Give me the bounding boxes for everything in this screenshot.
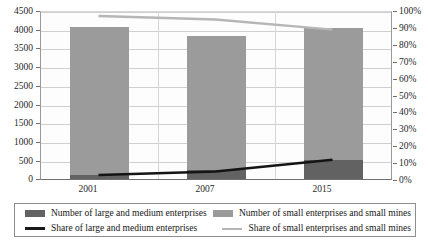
axis-tick — [393, 62, 397, 63]
plot-area — [40, 11, 392, 180]
axis-tick — [393, 79, 397, 80]
right-axis-tick-label: 20% — [399, 141, 416, 151]
axis-tick — [393, 180, 397, 181]
axis-tick — [36, 67, 40, 68]
legend-label: Number of large and medium enterprises — [51, 208, 207, 219]
category-separator — [158, 12, 159, 179]
axis-tick — [36, 30, 40, 31]
chart-container: 4500 4000 3500 3000 2500 2000 1500 1000 … — [0, 0, 428, 247]
axis-tick — [393, 45, 397, 46]
right-axis-tick-label: 10% — [399, 158, 416, 168]
legend-label: Share of small enterprises and small min… — [248, 223, 411, 234]
bar-large-medium-2015 — [304, 160, 363, 179]
axis-tick — [36, 48, 40, 49]
bar-light-swatch-icon — [213, 210, 233, 217]
axis-tick — [36, 105, 40, 106]
left-axis-tick-label: 4500 — [0, 6, 33, 16]
left-axis-tick-label: 1000 — [0, 137, 33, 147]
legend-item-number-small[interactable]: Number of small enterprises and small mi… — [207, 206, 411, 221]
x-axis-tick-label: 2015 — [292, 184, 352, 195]
legend-item-share-small[interactable]: Share of small enterprises and small min… — [216, 221, 411, 236]
left-axis-tick-label: 500 — [0, 156, 33, 166]
left-axis-tick-label: 2500 — [0, 81, 33, 91]
legend-item-share-large-medium[interactable]: Share of large and medium enterprises — [19, 221, 216, 236]
category-separator — [275, 12, 276, 179]
axis-tick — [393, 28, 397, 29]
right-axis-tick-label: 70% — [399, 57, 416, 67]
left-axis-tick-label: 4000 — [0, 25, 33, 35]
legend-row: Share of large and medium enterprises Sh… — [19, 221, 411, 236]
left-axis-tick-label: 3500 — [0, 43, 33, 53]
left-axis-tick-label: 2000 — [0, 100, 33, 110]
legend-label: Number of small enterprises and small mi… — [239, 208, 411, 219]
axis-tick — [36, 142, 40, 143]
bar-large-medium-2007 — [187, 170, 246, 179]
bar-small-2007 — [187, 36, 246, 179]
gridline — [41, 12, 391, 13]
left-axis-tick-label: 0 — [0, 174, 33, 184]
x-axis-tick-label: 2007 — [175, 184, 235, 195]
axis-tick — [36, 11, 40, 12]
legend-row: Number of large and medium enterprises N… — [19, 206, 411, 221]
right-axis-tick-label: 80% — [399, 40, 416, 50]
bar-dark-swatch-icon — [25, 210, 45, 217]
axis-tick — [393, 163, 397, 164]
x-axis-tick-label: 2001 — [58, 184, 118, 195]
legend-item-number-large-medium[interactable]: Number of large and medium enterprises — [19, 206, 207, 221]
axis-tick — [36, 86, 40, 87]
bar-large-medium-2001 — [70, 175, 129, 179]
chart-legend: Number of large and medium enterprises N… — [14, 203, 416, 237]
axis-tick — [393, 96, 397, 97]
right-axis-tick-label: 50% — [399, 91, 416, 101]
axis-tick — [36, 123, 40, 124]
right-axis-tick-label: 100% — [399, 6, 421, 16]
axis-tick — [393, 112, 397, 113]
bar-small-2001 — [70, 27, 129, 179]
right-axis-tick-label: 40% — [399, 107, 416, 117]
left-axis-tick-label: 3000 — [0, 62, 33, 72]
right-axis-tick-label: 90% — [399, 23, 416, 33]
right-axis-tick-label: 0% — [399, 175, 412, 185]
axis-tick — [36, 179, 40, 180]
right-axis-tick-label: 30% — [399, 124, 416, 134]
bar-small-2015 — [304, 28, 363, 179]
line-light-swatch-icon — [222, 225, 242, 232]
axis-tick — [393, 146, 397, 147]
axis-tick — [393, 129, 397, 130]
right-axis-tick-label: 60% — [399, 74, 416, 84]
line-dark-swatch-icon — [25, 225, 45, 232]
axis-tick — [36, 161, 40, 162]
axis-tick — [393, 11, 397, 12]
left-axis-tick-label: 1500 — [0, 118, 33, 128]
legend-label: Share of large and medium enterprises — [51, 223, 197, 234]
